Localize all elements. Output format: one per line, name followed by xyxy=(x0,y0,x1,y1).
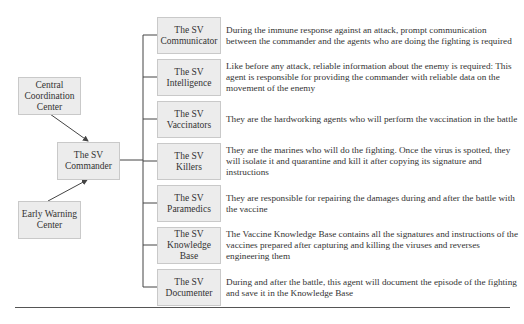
agent-box-vaccinators: The SV Vaccinators xyxy=(157,101,221,138)
agent-box-communicator: The SV Communicator xyxy=(157,17,221,54)
agent-box-paramedics: The SV Paramedics xyxy=(157,185,221,222)
agent-label: The SV Vaccinators xyxy=(167,109,211,131)
description-text: During and after the battle, this agent … xyxy=(226,277,518,299)
description-text: They are the hardworking agents who will… xyxy=(226,114,517,125)
commander-box: The SV Commander xyxy=(57,142,120,180)
agent-label: The SV Knowledge Base xyxy=(158,229,220,262)
central-coordination-center-box: Central Coordination Center xyxy=(18,77,81,115)
bottom-rule xyxy=(15,307,510,308)
agent-label: The SV Documenter xyxy=(166,277,213,299)
agent-description-vaccinators: They are the hardworking agents who will… xyxy=(226,101,518,138)
agent-description-knowledge-base: The Vaccine Knowledge Base contains all … xyxy=(226,227,518,264)
agent-description-communicator: During the immune response against an at… xyxy=(226,17,518,54)
agent-label: The SV Intelligence xyxy=(167,67,212,89)
agent-description-paramedics: They are responsible for repairing the d… xyxy=(226,185,518,222)
description-text: During the immune response against an at… xyxy=(226,25,518,47)
agent-label: The SV Killers xyxy=(174,151,203,173)
agent-box-knowledge-base: The SV Knowledge Base xyxy=(157,227,221,264)
commander-label: The SV Commander xyxy=(65,150,112,172)
early-warning-center-box: Early Warning Center xyxy=(18,201,81,239)
arrow-early-to-commander xyxy=(48,180,87,201)
agent-description-documenter: During and after the battle, this agent … xyxy=(226,269,518,306)
agent-label: The SV Paramedics xyxy=(167,193,211,215)
agent-box-intelligence: The SV Intelligence xyxy=(157,59,221,96)
agent-description-killers: They are the marines who will do the fig… xyxy=(226,143,518,180)
description-text: Like before any attack, reliable informa… xyxy=(226,61,518,94)
agent-box-documenter: The SV Documenter xyxy=(157,269,221,306)
arrow-central-to-commander xyxy=(50,114,88,141)
description-text: They are the marines who will do the fig… xyxy=(226,145,518,178)
description-text: They are responsible for repairing the d… xyxy=(226,193,518,215)
early-warning-center-label: Early Warning Center xyxy=(22,209,77,231)
agent-box-killers: The SV Killers xyxy=(157,143,221,180)
description-text: The Vaccine Knowledge Base contains all … xyxy=(226,229,518,262)
agent-label: The SV Communicator xyxy=(161,25,218,47)
central-coordination-center-label: Central Coordination Center xyxy=(24,80,74,113)
agent-description-intelligence: Like before any attack, reliable informa… xyxy=(226,59,518,96)
